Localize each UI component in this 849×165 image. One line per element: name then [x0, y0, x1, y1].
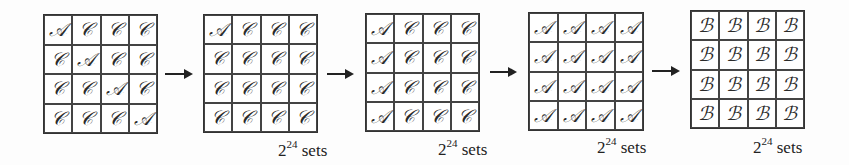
- state-grid-2: 𝒜 𝒞 𝒞 𝒞 𝒞 𝒞 𝒞 𝒞 𝒞 𝒞 𝒞 𝒞 𝒞 𝒞 𝒞 𝒞: [203, 14, 318, 133]
- arrow-right-icon: [490, 71, 515, 73]
- cell: 𝒜: [615, 13, 644, 42]
- state-grid-5: ℬ ℬ ℬ ℬ ℬ ℬ ℬ ℬ ℬ ℬ ℬ ℬ ℬ ℬ ℬ ℬ: [690, 10, 805, 129]
- label-base: 2: [438, 140, 447, 159]
- cell: 𝒜: [586, 101, 615, 130]
- cell: 𝒞: [289, 74, 317, 103]
- cell: ℬ: [776, 40, 804, 69]
- cell: ℬ: [719, 40, 747, 69]
- cell: 𝒞: [423, 102, 451, 131]
- cell: 𝒞: [44, 104, 72, 134]
- cell: 𝒜: [529, 42, 558, 71]
- cell: ℬ: [719, 70, 747, 99]
- set-count-label-2: 224 sets: [278, 140, 327, 159]
- cell: 𝒞: [129, 74, 157, 104]
- cell: 𝒜: [558, 13, 587, 42]
- label-base: 2: [753, 138, 762, 157]
- cell: 𝒜: [366, 43, 394, 72]
- cell: 𝒞: [394, 14, 422, 43]
- cell: 𝒞: [289, 103, 317, 132]
- cell: ℬ: [719, 11, 747, 40]
- cell: 𝒜: [558, 101, 587, 130]
- cell: 𝒞: [101, 15, 129, 45]
- cell: 𝒞: [44, 74, 72, 104]
- cell: 𝒜: [204, 15, 232, 44]
- cell: ℬ: [748, 11, 776, 40]
- label-exponent: 24: [762, 135, 773, 147]
- set-count-label-3: 224 sets: [438, 139, 487, 158]
- cell: 𝒜: [129, 104, 157, 134]
- cell: 𝒞: [423, 73, 451, 102]
- cell: 𝒞: [451, 73, 479, 102]
- cell: 𝒞: [261, 103, 289, 132]
- state-grid-3: 𝒜 𝒞 𝒞 𝒞 𝒜 𝒞 𝒞 𝒞 𝒜 𝒞 𝒞 𝒞 𝒜 𝒞 𝒞 𝒞: [365, 13, 480, 132]
- arrow-right-icon: [327, 73, 352, 75]
- cell: 𝒜: [558, 72, 587, 101]
- cell: 𝒞: [204, 74, 232, 103]
- cell: 𝒞: [289, 15, 317, 44]
- cell: 𝒞: [101, 104, 129, 134]
- cell: 𝒞: [394, 43, 422, 72]
- cell: 𝒜: [529, 13, 558, 42]
- cell: 𝒞: [101, 45, 129, 75]
- cell: 𝒜: [615, 42, 644, 71]
- cell: ℬ: [776, 11, 804, 40]
- cell: 𝒞: [261, 74, 289, 103]
- cell: 𝒞: [289, 44, 317, 73]
- label-suffix: sets: [617, 138, 647, 157]
- cell: 𝒜: [615, 101, 644, 130]
- cell: 𝒞: [451, 43, 479, 72]
- cell: 𝒞: [72, 15, 100, 45]
- cell: ℬ: [748, 70, 776, 99]
- label-suffix: sets: [298, 141, 328, 160]
- cell: 𝒜: [366, 102, 394, 131]
- cell: 𝒞: [204, 103, 232, 132]
- cell: 𝒜: [586, 13, 615, 42]
- cell: 𝒞: [72, 104, 100, 134]
- cell: 𝒜: [101, 74, 129, 104]
- cell: 𝒜: [44, 15, 72, 45]
- cell: ℬ: [776, 99, 804, 128]
- cell: ℬ: [691, 70, 719, 99]
- cell: ℬ: [776, 70, 804, 99]
- cell: 𝒞: [261, 15, 289, 44]
- cell: 𝒞: [451, 102, 479, 131]
- cell: 𝒜: [586, 72, 615, 101]
- state-grid-1: 𝒜 𝒞 𝒞 𝒞 𝒞 𝒜 𝒞 𝒞 𝒞 𝒞 𝒜 𝒞 𝒞 𝒞 𝒞 𝒜: [43, 14, 158, 134]
- state-grid-4: 𝒜 𝒜 𝒜 𝒜 𝒜 𝒜 𝒜 𝒜 𝒜 𝒜 𝒜 𝒜 𝒜 𝒜 𝒜 𝒜: [528, 12, 644, 131]
- cell: 𝒞: [72, 74, 100, 104]
- cell: ℬ: [691, 40, 719, 69]
- cell: ℬ: [748, 99, 776, 128]
- cell: 𝒞: [261, 44, 289, 73]
- cell: ℬ: [748, 40, 776, 69]
- cell: 𝒞: [204, 44, 232, 73]
- cell: 𝒜: [366, 14, 394, 43]
- label-exponent: 24: [447, 137, 458, 149]
- label-base: 2: [597, 138, 606, 157]
- arrow-right-icon: [165, 73, 191, 75]
- label-exponent: 24: [606, 135, 617, 147]
- set-count-label-5: 224 sets: [753, 137, 802, 156]
- cell: 𝒜: [529, 72, 558, 101]
- cell: 𝒜: [586, 42, 615, 71]
- cell: 𝒜: [558, 42, 587, 71]
- cell: ℬ: [719, 99, 747, 128]
- cell: 𝒞: [129, 15, 157, 45]
- cell: 𝒞: [232, 15, 260, 44]
- cell: ℬ: [691, 11, 719, 40]
- arrow-right-icon: [652, 70, 678, 72]
- label-base: 2: [278, 141, 287, 160]
- cell: 𝒞: [129, 45, 157, 75]
- label-suffix: sets: [458, 140, 488, 159]
- cell: 𝒞: [44, 45, 72, 75]
- label-suffix: sets: [773, 138, 803, 157]
- cell: 𝒞: [423, 43, 451, 72]
- cell: 𝒜: [615, 72, 644, 101]
- cell: 𝒜: [366, 73, 394, 102]
- cell: 𝒞: [232, 74, 260, 103]
- cell: 𝒞: [394, 73, 422, 102]
- cell: 𝒜: [72, 45, 100, 75]
- cell: ℬ: [691, 99, 719, 128]
- cell: 𝒞: [451, 14, 479, 43]
- cell: 𝒞: [423, 14, 451, 43]
- set-count-label-4: 224 sets: [597, 137, 646, 156]
